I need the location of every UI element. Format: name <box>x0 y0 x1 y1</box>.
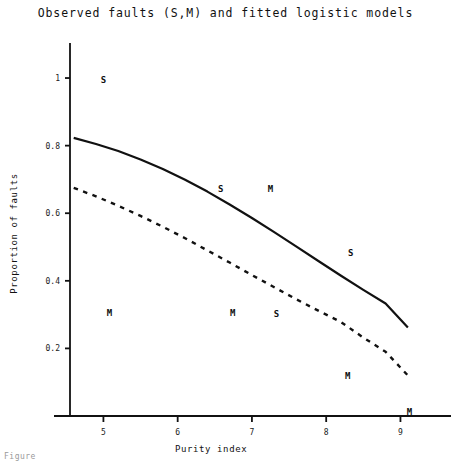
observed-point-s: S <box>274 309 279 319</box>
series-line-2 <box>74 188 408 376</box>
series-group <box>74 138 408 376</box>
y-axis-tick-label: 0.6 <box>46 209 61 218</box>
observed-point-m: M <box>268 184 274 194</box>
x-axis-tick-label: 5 <box>101 428 106 437</box>
observed-point-m: M <box>345 371 351 381</box>
observed-point-m: M <box>230 308 236 318</box>
series-line-1 <box>74 138 408 328</box>
chart-plot-area: 0.20.40.60.8156789 SSMSMMSMM Purity inde… <box>0 0 451 468</box>
observed-point-m: M <box>107 308 113 318</box>
x-axis-tick-label: 8 <box>324 428 329 437</box>
y-axis-tick-label: 0.2 <box>46 344 61 353</box>
y-axis-tick-label: 1 <box>55 74 60 83</box>
y-axis-tick-label: 0.4 <box>46 277 61 286</box>
observed-point-s: S <box>348 248 353 258</box>
y-axis-tick-label: 0.8 <box>46 142 61 151</box>
observed-point-s: S <box>218 184 223 194</box>
observed-point-s: S <box>101 75 106 85</box>
observed-point-m: M <box>407 407 413 417</box>
observed-points-group: SSMSMMSMM <box>101 75 413 417</box>
figure-container: Observed faults (S,M) and fitted logisti… <box>0 0 451 468</box>
x-axis-tick-label: 7 <box>250 428 255 437</box>
figure-caption: Figure <box>4 452 36 461</box>
x-axis-tick-label: 9 <box>398 428 403 437</box>
x-axis-title: Purity index <box>175 444 247 454</box>
y-axis-title: Proportion of faults <box>9 173 19 293</box>
x-axis-tick-label: 6 <box>175 428 180 437</box>
axes-group: 0.20.40.60.8156789 <box>46 43 451 437</box>
